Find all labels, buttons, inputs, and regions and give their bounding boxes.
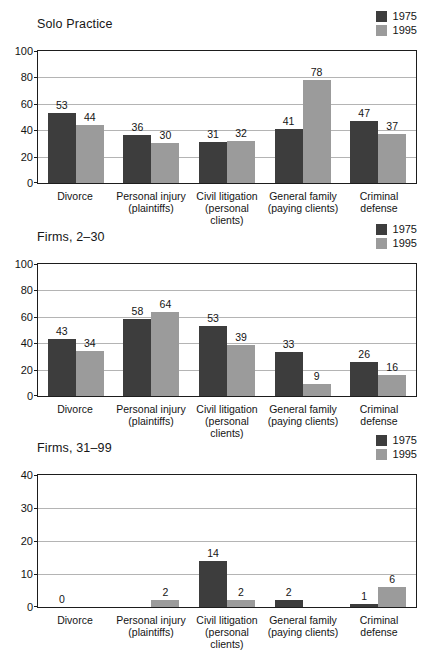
- bar[interactable]: [378, 587, 406, 607]
- bar-slot: 53: [48, 51, 76, 183]
- bar-value-label: 33: [283, 339, 295, 350]
- bar-groups: 53443630313241784737: [38, 51, 416, 183]
- x-axis-category-line2: (paying clients): [265, 626, 341, 638]
- y-axis-tick-label: 60: [21, 311, 33, 323]
- plot-area: 02040608010053443630313241784737: [37, 50, 417, 184]
- x-axis-category-line1: Civil litigation: [196, 614, 257, 626]
- bar-value-label: 2: [162, 587, 168, 598]
- bar[interactable]: [275, 352, 303, 396]
- bar-slot: 39: [227, 264, 255, 396]
- bar-value-label: 32: [235, 128, 247, 139]
- y-axis-tick-label: 40: [21, 469, 33, 481]
- bar[interactable]: [227, 600, 255, 607]
- legend: 1975 1995: [376, 11, 417, 36]
- panel-title: Firms, 31–99: [37, 441, 112, 455]
- bar[interactable]: [48, 339, 76, 396]
- bar-slot: 34: [76, 264, 104, 396]
- bar-value-label: 36: [132, 122, 144, 133]
- x-axis-category-line1: Criminal: [360, 190, 399, 202]
- bar-group: 339: [265, 264, 341, 396]
- bar[interactable]: [199, 561, 227, 607]
- x-axis-category-label: Criminaldefense: [341, 614, 417, 650]
- bar-value-label: 37: [386, 121, 398, 132]
- bar-group: 142: [189, 475, 265, 607]
- x-axis-category-line1: Personal injury: [116, 614, 185, 626]
- bar-value-label: 39: [235, 332, 247, 343]
- bar-groups: 02142216: [38, 475, 416, 607]
- x-axis-category-line1: Divorce: [57, 403, 93, 415]
- x-axis-category-line1: Divorce: [57, 614, 93, 626]
- bar-group: 5339: [189, 264, 265, 396]
- bar[interactable]: [275, 600, 303, 607]
- bar-value-label: 43: [56, 326, 68, 337]
- bar-value-label: 31: [207, 129, 219, 140]
- x-axis-category-line2: defense: [341, 626, 417, 638]
- bar[interactable]: [123, 319, 151, 396]
- bar-slot: 30: [151, 51, 179, 183]
- bar-value-label: 2: [238, 587, 244, 598]
- bar-value-label: 78: [311, 67, 323, 78]
- bar[interactable]: [303, 80, 331, 183]
- bar-slot: 43: [48, 264, 76, 396]
- legend: 1975 1995: [376, 224, 417, 249]
- bar[interactable]: [350, 121, 378, 183]
- bar-value-label: 26: [358, 349, 370, 360]
- legend-label: 1995: [393, 238, 417, 249]
- bar-group: 5344: [38, 51, 114, 183]
- bar-value-label: 14: [207, 548, 219, 559]
- bar[interactable]: [76, 125, 104, 183]
- bar-value-label: 47: [358, 108, 370, 119]
- bar[interactable]: [48, 113, 76, 183]
- bar-group: 16: [340, 475, 416, 607]
- bar-slot: 9: [303, 264, 331, 396]
- bar[interactable]: [350, 362, 378, 396]
- bar-slot: 0: [48, 475, 76, 607]
- legend-item-1995: 1995: [376, 25, 417, 36]
- bar-slot: 33: [275, 264, 303, 396]
- bar[interactable]: [378, 375, 406, 396]
- bar-slot: 58: [123, 264, 151, 396]
- bar[interactable]: [151, 312, 179, 396]
- bar-slot: 53: [199, 264, 227, 396]
- legend-swatch-dark-icon: [376, 224, 387, 235]
- bar-value-label: 41: [283, 116, 295, 127]
- x-axis-category-label: Personal injury(plaintiffs): [113, 614, 189, 650]
- bar[interactable]: [350, 604, 378, 607]
- x-axis-category-line1: Criminal: [360, 614, 399, 626]
- legend-item-1975: 1975: [376, 11, 417, 22]
- bar-slot: 2: [275, 475, 303, 607]
- bar-slot: 2: [227, 475, 255, 607]
- bar[interactable]: [123, 135, 151, 183]
- x-axis-category-line1: General family: [269, 614, 337, 626]
- chart-panel-solo-practice: Solo Practice 1975 1995 0204060801005344…: [0, 0, 438, 213]
- bar[interactable]: [199, 142, 227, 183]
- x-axis-category-line1: Personal injury: [116, 190, 185, 202]
- bar-slot: 64: [151, 264, 179, 396]
- bar-slot: 16: [378, 264, 406, 396]
- legend-item-1995: 1995: [376, 238, 417, 249]
- bar-value-label: 64: [160, 299, 172, 310]
- bar-value-label: 44: [84, 112, 96, 123]
- bar[interactable]: [151, 600, 179, 607]
- bar-slot: [76, 475, 104, 607]
- y-axis-tick-label: 80: [21, 71, 33, 83]
- bar-slot: 37: [378, 51, 406, 183]
- x-axis-category-line1: Civil litigation: [196, 190, 257, 202]
- chart-panel-firms-31-99: Firms, 31–99 1975 1995 01020304002142216…: [0, 424, 438, 658]
- bar[interactable]: [199, 326, 227, 396]
- bar[interactable]: [227, 141, 255, 183]
- bar[interactable]: [227, 345, 255, 396]
- bar-value-label: 1: [361, 591, 367, 602]
- bar-slot: [303, 475, 331, 607]
- bar-slot: 1: [350, 475, 378, 607]
- bar[interactable]: [378, 134, 406, 183]
- legend-swatch-light-icon: [376, 25, 387, 36]
- y-axis-tick-label: 20: [21, 364, 33, 376]
- bar[interactable]: [275, 129, 303, 183]
- bar[interactable]: [151, 143, 179, 183]
- bar[interactable]: [303, 384, 331, 396]
- y-axis-tick-label: 0: [27, 390, 33, 402]
- bar-slot: 36: [123, 51, 151, 183]
- bar[interactable]: [76, 351, 104, 396]
- bar-slot: 47: [350, 51, 378, 183]
